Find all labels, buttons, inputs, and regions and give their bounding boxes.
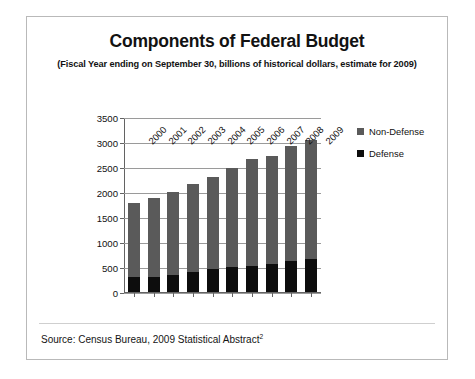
bar-segment-non-defense (285, 146, 297, 262)
source-footnote-marker: 2 (259, 333, 263, 340)
y-tick-mark-2000 (120, 193, 124, 194)
x-tick-mark-2007 (272, 293, 273, 297)
figure-frame: Components of Federal Budget (Fiscal Yea… (26, 16, 448, 360)
x-tick-mark-2002 (173, 293, 174, 297)
bar-segment-non-defense (187, 184, 199, 272)
y-tick-label: 2500 (97, 163, 118, 174)
bar-segment-non-defense (128, 203, 140, 278)
bar-2006 (246, 159, 258, 292)
legend-swatch-icon (357, 150, 364, 157)
bar-segment-non-defense (148, 198, 160, 277)
y-tick-label: 500 (102, 263, 118, 274)
legend-item-non-defense: Non-Defense (357, 126, 424, 137)
y-tick-label: 1000 (97, 238, 118, 249)
bar-2000 (128, 203, 140, 293)
bar-segment-defense (226, 267, 238, 292)
gridline-3500 (124, 118, 321, 119)
bar-2002 (167, 192, 179, 293)
bar-segment-non-defense (207, 177, 219, 269)
y-tick-label: 0 (113, 288, 118, 299)
bar-segment-non-defense (266, 156, 278, 265)
x-tick-mark-2009 (311, 293, 312, 297)
source-text: Source: Census Bureau, 2009 Statistical … (41, 334, 259, 345)
y-tick-mark-1500 (120, 218, 124, 219)
x-tick-mark-2005 (232, 293, 233, 297)
x-tick-mark-2003 (193, 293, 194, 297)
plot-region: 0500100015002000250030003500 20002001200… (27, 91, 447, 316)
bar-segment-defense (207, 269, 219, 292)
bar-segment-non-defense (305, 140, 317, 259)
legend-swatch-icon (357, 128, 364, 135)
bar-segment-non-defense (246, 159, 258, 266)
x-tick-mark-2006 (252, 293, 253, 297)
y-tick-mark-3000 (120, 143, 124, 144)
bar-segment-defense (266, 264, 278, 292)
bar-segment-defense (128, 277, 140, 292)
y-tick-mark-3500 (120, 118, 124, 119)
legend-label: Defense (369, 148, 404, 159)
y-tick-label: 1500 (97, 213, 118, 224)
y-tick-mark-0 (120, 293, 124, 294)
y-tick-mark-2500 (120, 168, 124, 169)
source-note: Source: Census Bureau, 2009 Statistical … (41, 333, 263, 345)
bar-segment-defense (305, 259, 317, 292)
bar-segment-defense (285, 261, 297, 292)
bar-segment-defense (148, 277, 160, 293)
bar-2008 (285, 146, 297, 293)
bar-2009 (305, 140, 317, 292)
chart-subtitle: (Fiscal Year ending on September 30, bil… (27, 59, 447, 69)
bar-segment-non-defense (167, 192, 179, 275)
legend-item-defense: Defense (357, 148, 424, 159)
bar-segment-defense (246, 266, 258, 292)
x-tick-mark-2001 (154, 293, 155, 297)
y-tick-mark-1000 (120, 243, 124, 244)
plot-area: 0500100015002000250030003500 20002001200… (124, 118, 321, 293)
bar-2007 (266, 156, 278, 293)
x-tick-mark-2000 (134, 293, 135, 297)
bar-2001 (148, 198, 160, 293)
x-tick-mark-2008 (291, 293, 292, 297)
y-tick-label: 2000 (97, 188, 118, 199)
y-tick-label: 3000 (97, 138, 118, 149)
x-tick-mark-2004 (213, 293, 214, 297)
y-tick-mark-500 (120, 268, 124, 269)
bar-segment-defense (167, 275, 179, 293)
chart-title: Components of Federal Budget (27, 31, 447, 52)
legend-label: Non-Defense (369, 126, 424, 137)
x-tick-label-2009: 2009 (323, 124, 346, 147)
y-tick-label: 3500 (97, 113, 118, 124)
bar-segment-defense (187, 272, 199, 292)
source-divider (39, 323, 435, 324)
bar-2003 (187, 184, 199, 292)
bar-2005 (226, 168, 238, 292)
bar-2004 (207, 177, 219, 292)
bar-segment-non-defense (226, 168, 238, 267)
chart-legend: Non-DefenseDefense (357, 126, 424, 170)
